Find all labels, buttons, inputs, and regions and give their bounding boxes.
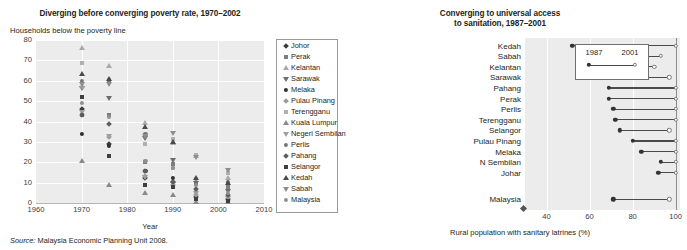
left-y-tick: 80: [8, 35, 32, 44]
legend-item-selangor[interactable]: Selangor: [277, 161, 337, 172]
dumbbell-dot-2001: [658, 54, 662, 58]
dumbbell-row-label: Johar: [501, 168, 521, 177]
dumbbell-dot-1987: [639, 149, 643, 153]
left-y-tick: 60: [8, 76, 32, 85]
dumbbell-dot-1987: [613, 117, 617, 121]
dumbbell-row-label: Kedah: [498, 41, 521, 50]
scatter-point: [194, 197, 198, 201]
dumbbell-row-label: Melaka: [495, 147, 521, 156]
scatter-point: [80, 100, 84, 104]
left-y-tick: 20: [8, 157, 32, 166]
legend-marker-icon: [282, 96, 291, 105]
left-y-axis-label: Households below the poverty line: [10, 26, 126, 35]
dumbbell-connector: [633, 140, 676, 141]
left-chart-title: Diverging before converging poverty rate…: [10, 9, 270, 19]
dumbbell-row-label: Pulau Pinang: [473, 136, 521, 145]
legend-item-melaka[interactable]: Melaka: [277, 84, 337, 95]
dumbbell-connector: [615, 119, 675, 120]
right-chart-legend: 1987 2001: [575, 44, 649, 80]
legend-item-sarawak[interactable]: Sarawak: [277, 73, 337, 84]
legend-year-end: 2001: [622, 48, 639, 57]
legend-marker-icon: [282, 63, 291, 72]
dumbbell-row-label: Selangor: [489, 126, 521, 135]
dumbbell-row-label: N Sembilan: [480, 158, 521, 167]
dumbbell-dot-2001: [667, 197, 671, 201]
legend-item-label: Sabah: [291, 184, 312, 193]
source-prefix: Source:: [10, 236, 35, 245]
legend-item-label: Pahang: [291, 151, 316, 160]
left-y-tick: 10: [8, 178, 32, 187]
legend-marker-icon: [282, 173, 291, 182]
dumbbell-connector: [609, 87, 676, 88]
left-x-axis-label: Year: [0, 222, 300, 231]
dumbbell-dot-2001: [673, 117, 677, 121]
legend-item-label: Kuala Lumpur: [291, 118, 337, 127]
left-x-tick: 2000: [198, 205, 238, 214]
dumbbell-dot-2001: [673, 160, 677, 164]
legend-marker-icon: [282, 118, 291, 127]
scatter-point: [80, 61, 84, 65]
legend-marker-icon: [282, 107, 291, 116]
dumbbell-dot-1987: [656, 170, 660, 174]
legend-item-negeri-sembilan[interactable]: Negeri Sembilan: [277, 128, 337, 139]
scatter-point: [143, 168, 149, 174]
left-x-tick: 1980: [107, 205, 147, 214]
legend-item-kelantan[interactable]: Kelantan: [277, 62, 337, 73]
scatter-point: [106, 76, 112, 81]
left-y-tick: 50: [8, 96, 32, 105]
legend-item-pulau-pinang[interactable]: Pulau Pinang: [277, 95, 337, 106]
dumbbell-row-label: Pahang: [493, 83, 521, 92]
dumbbell-connector: [613, 199, 669, 200]
legend-item-kuala-lumpur[interactable]: Kuala Lumpur: [277, 117, 337, 128]
dumbbell-dot-2001: [673, 170, 677, 174]
dumbbell-dot-2001: [667, 128, 671, 132]
legend-marker-icon: [282, 195, 291, 204]
dumbbell-connector: [641, 151, 675, 152]
legend-item-kedah[interactable]: Kedah: [277, 172, 337, 183]
legend-item-label: Selangor: [291, 162, 321, 171]
right-x-tick: 100: [661, 212, 687, 221]
dumbbell-dot-2001: [652, 64, 656, 68]
legend-year-start: 1987: [586, 48, 603, 57]
scatter-point: [143, 142, 147, 146]
scatter-point: [79, 71, 85, 76]
legend-item-sabah[interactable]: Sabah: [277, 183, 337, 194]
scatter-point: [80, 95, 84, 99]
legend-item-label: Johor: [291, 41, 310, 50]
scatter-point: [170, 158, 176, 163]
legend-marker-icon: [282, 184, 291, 193]
scatter-point: [142, 134, 148, 139]
legend-item-malaysia[interactable]: Malaysia: [277, 194, 337, 205]
legend-dot-1987: [587, 63, 591, 67]
legend-item-label: Malaysia: [291, 195, 320, 204]
legend-item-johor[interactable]: Johor: [277, 40, 337, 51]
scatter-point: [107, 115, 111, 119]
left-chart-legend: JohorPerakKelantanSarawakMelakaPulau Pin…: [276, 39, 338, 213]
scatter-point: [106, 63, 112, 68]
scatter-point: [106, 182, 112, 187]
scatter-point: [226, 199, 230, 203]
scatter-point: [171, 166, 175, 170]
left-x-tick: 1970: [62, 205, 102, 214]
dumbbell-row-label: Malaysia: [489, 195, 521, 204]
legend-dumbbell-sample: [586, 62, 638, 68]
legend-item-pahang[interactable]: Pahang: [277, 150, 337, 161]
scatter-point: [107, 144, 111, 148]
legend-item-terengganu[interactable]: Terengganu: [277, 106, 337, 117]
legend-item-perlis[interactable]: Perlis: [277, 139, 337, 150]
legend-item-perak[interactable]: Perak: [277, 51, 337, 62]
dumbbell-dot-2001: [673, 43, 677, 47]
dumbbell-dot-2001: [673, 86, 677, 90]
scatter-point: [142, 190, 148, 195]
left-y-tick: 70: [8, 55, 32, 64]
dumbbell-connector: [609, 98, 676, 99]
scatter-point: [80, 131, 84, 135]
scatter-point: [107, 154, 111, 158]
legend-item-label: Melaka: [291, 85, 315, 94]
scatter-point: [170, 139, 176, 144]
scatter-point: [106, 82, 112, 87]
dumbbell-row-label: Sarawak: [490, 73, 521, 82]
right-x-tick: 40: [532, 212, 562, 221]
scatter-point: [79, 158, 85, 163]
